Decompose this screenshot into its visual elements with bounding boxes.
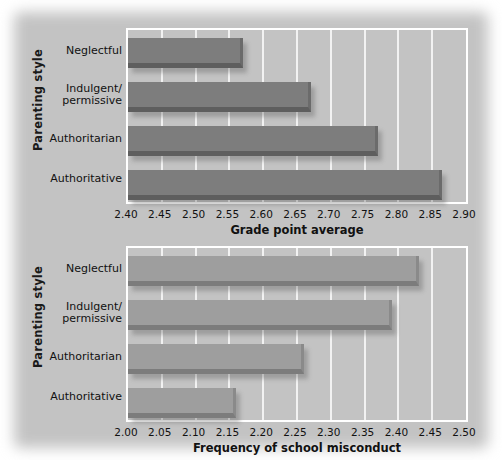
y-axis-category-label: Authoritative	[34, 391, 122, 403]
y-axis-category-label: Neglectful	[34, 263, 122, 275]
bar	[128, 38, 243, 68]
bar-row	[128, 38, 466, 68]
bar-row	[128, 388, 466, 418]
y-axis-category-label: Authoritarian	[34, 351, 122, 363]
category-label-line: Authoritative	[34, 173, 122, 185]
category-label-line: Authoritarian	[34, 351, 122, 363]
chart-frequency-of-school-misconduct: Parenting style NeglectfulIndulgent/perm…	[0, 238, 502, 453]
bar-row	[128, 126, 466, 156]
bar	[128, 388, 236, 418]
bar-row	[128, 344, 466, 374]
plot-area-bottom	[126, 246, 468, 422]
bar	[128, 170, 442, 200]
y-axis-category-label: Indulgent/permissive	[34, 301, 122, 325]
category-label-line: Neglectful	[34, 263, 122, 275]
y-axis-category-label: Authoritarian	[34, 133, 122, 145]
figure: Parenting style NeglectfulIndulgent/perm…	[0, 0, 502, 460]
x-axis-ticks-top: 2.402.452.502.552.602.652.702.752.802.85…	[126, 208, 468, 224]
category-label-line: Authoritarian	[34, 133, 122, 145]
category-label-line: permissive	[34, 95, 122, 107]
bar-row	[128, 170, 466, 200]
bar-row	[128, 300, 466, 330]
y-axis-category-label: Authoritative	[34, 173, 122, 185]
category-label-line: Authoritative	[34, 391, 122, 403]
bar-row	[128, 256, 466, 286]
x-axis-title-bottom: Frequency of school misconduct	[126, 441, 468, 455]
bar	[128, 256, 419, 286]
y-axis-category-label: Indulgent/permissive	[34, 83, 122, 107]
category-label-line: permissive	[34, 313, 122, 325]
bar	[128, 126, 378, 156]
y-axis-category-label: Neglectful	[34, 45, 122, 57]
category-label-line: Neglectful	[34, 45, 122, 57]
x-axis-ticks-bottom: 2.002.052.102.152.202.252.302.352.402.45…	[126, 426, 468, 442]
x-axis-tick-label: 2.50	[444, 426, 484, 438]
bar	[128, 344, 304, 374]
bar	[128, 82, 311, 112]
bar-row	[128, 82, 466, 112]
bar	[128, 300, 392, 330]
chart-grade-point-average: Parenting style NeglectfulIndulgent/perm…	[0, 18, 502, 233]
x-axis-tick-label: 2.90	[444, 208, 484, 220]
plot-area-top	[126, 28, 468, 204]
x-axis-title-top: Grade point average	[126, 223, 468, 237]
